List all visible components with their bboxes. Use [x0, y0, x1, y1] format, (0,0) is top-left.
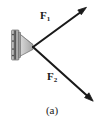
force-label-f1: F1 — [40, 10, 50, 21]
force-label-f2-subscript: 2 — [54, 76, 58, 84]
bracket-cone — [20, 35, 33, 57]
force-label-f2-symbol: F — [47, 70, 54, 82]
force-label-f2: F2 — [47, 71, 57, 82]
force-label-f1-subscript: 1 — [47, 15, 51, 23]
force-vector-f2 — [33, 47, 93, 101]
wall-mount-plate — [12, 30, 21, 60]
force-diagram-figure: F1 F2 (a) — [0, 0, 104, 124]
force-label-f1-symbol: F — [40, 9, 47, 21]
figure-caption: (a) — [0, 104, 104, 116]
